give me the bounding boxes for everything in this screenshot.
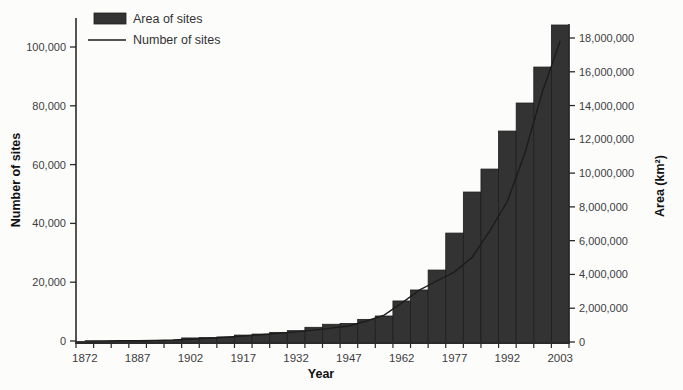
protected-areas-growth-chart: 020,00040,00060,00080,000100,00002,000,0… <box>0 0 683 390</box>
right-tick-label: 8,000,000 <box>579 201 628 213</box>
x-tick-label: 1917 <box>230 352 256 364</box>
x-tick-label: 1947 <box>336 352 362 364</box>
area-bar <box>446 233 464 343</box>
left-tick-label: 60,000 <box>32 159 66 171</box>
right-tick-label: 2,000,000 <box>579 302 628 314</box>
x-tick-label: 1932 <box>283 352 309 364</box>
left-tick-label: 0 <box>60 335 66 347</box>
area-bar <box>499 131 517 343</box>
area-bar <box>516 103 534 343</box>
left-axis-ticks: 020,00040,00060,00080,000100,000 <box>26 41 76 347</box>
area-bars-series <box>76 25 569 343</box>
right-tick-label: 4,000,000 <box>579 268 628 280</box>
x-tick-label: 1962 <box>389 352 415 364</box>
legend-label: Number of sites <box>133 33 221 47</box>
x-tick-label: 1887 <box>125 352 151 364</box>
right-tick-label: 10,000,000 <box>579 167 634 179</box>
area-bar <box>411 290 429 343</box>
left-tick-label: 100,000 <box>26 41 66 53</box>
chart-figure: 020,00040,00060,00080,000100,00002,000,0… <box>0 0 683 390</box>
right-axis-ticks: 02,000,0004,000,0006,000,0008,000,00010,… <box>569 32 634 348</box>
left-tick-label: 20,000 <box>32 276 66 288</box>
right-tick-label: 16,000,000 <box>579 66 634 78</box>
x-tick-label: 1872 <box>72 352 98 364</box>
area-bar <box>463 192 481 343</box>
legend: Area of sitesNumber of sites <box>88 12 221 47</box>
left-tick-label: 40,000 <box>32 217 66 229</box>
right-tick-label: 14,000,000 <box>579 100 634 112</box>
left-axis-title: Number of sites <box>9 133 23 228</box>
x-tick-label: 2003 <box>547 352 573 364</box>
x-tick-label: 1902 <box>178 352 204 364</box>
right-tick-label: 12,000,000 <box>579 133 634 145</box>
x-axis-ticks: 1872188719021917193219471962197719922003 <box>72 343 573 364</box>
legend-label: Area of sites <box>133 12 202 26</box>
area-bar <box>551 25 569 343</box>
area-bar <box>534 67 552 343</box>
right-axis-title: Area (km²) <box>653 155 667 217</box>
right-tick-label: 6,000,000 <box>579 235 628 247</box>
right-tick-label: 18,000,000 <box>579 32 634 44</box>
x-tick-label: 1992 <box>495 352 521 364</box>
x-tick-label: 1977 <box>442 352 468 364</box>
right-tick-label: 0 <box>579 336 585 348</box>
area-bar <box>375 316 393 343</box>
left-tick-label: 80,000 <box>32 100 66 112</box>
area-bar <box>481 169 499 343</box>
x-axis-title: Year <box>308 367 335 381</box>
legend-bar-swatch <box>94 13 126 24</box>
